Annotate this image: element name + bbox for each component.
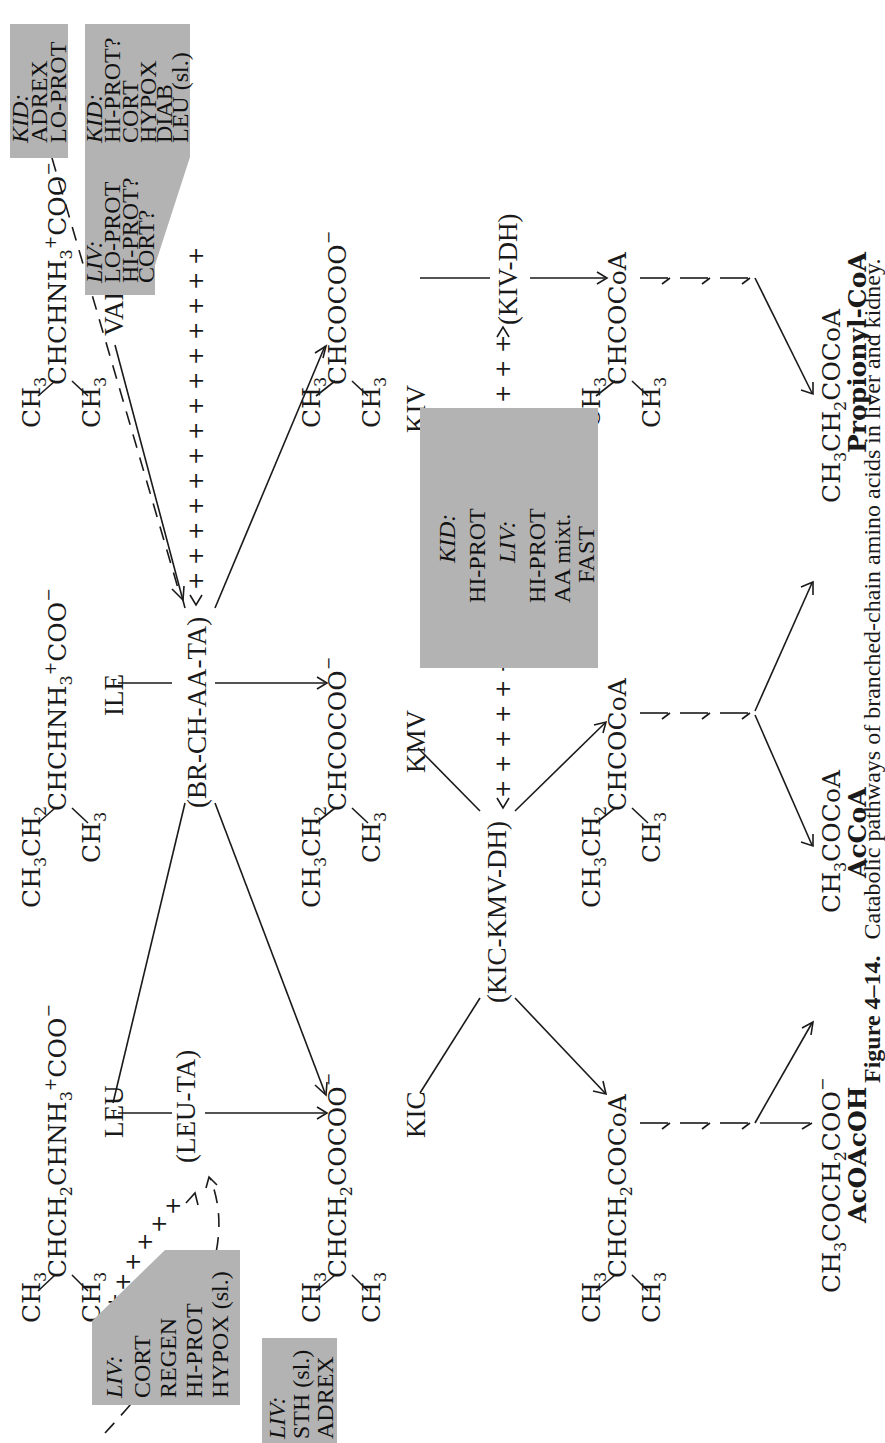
svg-text:HYPOX (sl.): HYPOX (sl.) xyxy=(207,1271,233,1398)
svg-text:+: + xyxy=(183,297,208,315)
svg-text:+: + xyxy=(490,755,515,773)
enzyme-kiv-dh[interactable]: (KIV-DH) xyxy=(493,214,523,325)
svg-text:HI-PROT: HI-PROT xyxy=(464,508,490,603)
ile-main-chain: CHCHNH3+COO− xyxy=(39,588,76,811)
kiv-keto-acid: CH3 CHCOCOO− CH3 xyxy=(297,231,390,428)
svg-text:REGEN: REGEN xyxy=(155,1318,181,1398)
svg-text:CH3: CH3 xyxy=(297,1272,330,1323)
svg-text:CH3: CH3 xyxy=(637,1272,670,1323)
svg-text:CHCOCOO−: CHCOCOO− xyxy=(319,231,352,385)
svg-text:+: + xyxy=(183,372,208,390)
svg-text:+: + xyxy=(490,385,515,403)
ile-ch3: CH3 xyxy=(77,812,110,863)
svg-text:+: + xyxy=(120,1253,145,1271)
box-dehydrogenase-regulation: KID: HI-PROT LIV: HI-PROT AA mixt. FAST xyxy=(420,408,599,668)
svg-text:LEU (sl.): LEU (sl.) xyxy=(167,52,193,143)
svg-text:HI-PROT: HI-PROT xyxy=(181,1303,207,1398)
ile-amino-acid: CH3CH2 CHCHNH3+COO− CH3 xyxy=(17,588,110,908)
val-ch3-lower: CH3 xyxy=(77,377,110,428)
svg-text:LIV:: LIV: xyxy=(101,1356,127,1399)
svg-text:LIV:: LIV: xyxy=(494,521,520,564)
svg-text:+: + xyxy=(490,705,515,723)
svg-text:+: + xyxy=(490,730,515,748)
svg-text:CORT?: CORT? xyxy=(133,210,159,283)
svg-text:+: + xyxy=(183,572,208,590)
svg-text:ADREX: ADREX xyxy=(312,1356,338,1439)
svg-text:+: + xyxy=(183,497,208,515)
svg-text:LIV:: LIV: xyxy=(264,1397,290,1440)
product-acoacoh: CH3COCH2COO− AcOAcOH xyxy=(813,1078,872,1293)
enzyme-leu-ta[interactable]: (LEU-TA) xyxy=(171,1050,201,1163)
svg-text:CORT: CORT xyxy=(129,1335,155,1398)
svg-text:LO-PROT: LO-PROT xyxy=(45,41,71,143)
ile-label: ILE xyxy=(99,674,129,716)
br-ch-aa-ta-positive-effect: + + + + + + + + + + + + + + xyxy=(183,247,208,605)
svg-text:CH3: CH3 xyxy=(637,812,670,863)
svg-text:FAST: FAST xyxy=(573,526,599,583)
svg-text:AA mixt.: AA mixt. xyxy=(549,514,575,603)
svg-text:+: + xyxy=(183,547,208,565)
pathway-diagram: CH3 CH3 CHCH2CHNH3+COO− CH3 CH3CH2 CHCHN… xyxy=(0,0,885,1443)
svg-text:+: + xyxy=(183,247,208,265)
svg-text:CHCOCoA: CHCOCoA xyxy=(603,251,632,385)
svg-text:AcOAcOH: AcOAcOH xyxy=(843,1087,872,1224)
svg-text:+: + xyxy=(183,472,208,490)
svg-text:CHCOCoA: CHCOCoA xyxy=(603,677,632,811)
svg-text:+: + xyxy=(183,422,208,440)
leu-amino-acid: CH3 CHCH2CHNH3+COO− CH3 xyxy=(17,1004,110,1323)
svg-text:+: + xyxy=(183,447,208,465)
svg-text:+: + xyxy=(490,335,515,353)
svg-text:CH3: CH3 xyxy=(357,377,390,428)
kic-label: KIC xyxy=(401,1092,431,1139)
kic-acyl-coa: CH3 CHCH2COCoA CH3 xyxy=(577,1093,670,1323)
svg-text:CHCH2COCoA: CHCH2COCoA xyxy=(603,1093,636,1278)
enzyme-br-ch-aa-ta[interactable]: (BR-CH-AA-TA) xyxy=(182,617,212,808)
kmv-keto-acid: CH3CH2 CHCOCOO− CH3 xyxy=(297,657,390,908)
svg-text:STH (sl.): STH (sl.) xyxy=(288,1350,314,1439)
box-br-ch-aa-ta-kidney-adrex: KID: ADREX LO-PROT xyxy=(7,24,71,158)
svg-text:CH3: CH3 xyxy=(357,812,390,863)
box-leu-ta-liver-sth: LIV: STH (sl.) ADREX xyxy=(262,1338,338,1443)
svg-text:+: + xyxy=(183,397,208,415)
figure-stage: CH3 CH3 CHCH2CHNH3+COO− CH3 CH3CH2 CHCHN… xyxy=(0,0,885,1443)
svg-text:+: + xyxy=(490,680,515,698)
svg-text:+: + xyxy=(146,1215,171,1233)
svg-text:+: + xyxy=(490,780,515,798)
kmv-acyl-coa: CH3CH2 CHCOCoA CH3 xyxy=(577,677,670,908)
svg-text:CH3CH2: CH3CH2 xyxy=(297,806,330,908)
svg-text:CHCOCOO−: CHCOCOO− xyxy=(319,657,352,811)
leu-ch3-upper: CH3 xyxy=(17,1272,50,1323)
figure-caption: Figure 4–14.Catabolic pathways of branch… xyxy=(859,259,885,1083)
svg-text:CHCH2COCOO−: CHCH2COCOO− xyxy=(319,1073,356,1278)
svg-text:KID:: KID: xyxy=(434,514,460,564)
box-br-ch-aa-ta-liver-kidney: LIV: LO-PROT HI-PROT? CORT? KID: HI-PROT… xyxy=(81,24,193,295)
svg-text:HI-PROT: HI-PROT xyxy=(524,508,550,603)
svg-text:+: + xyxy=(490,360,515,378)
ile-ch3ch2: CH3CH2 xyxy=(17,806,50,908)
leu-label: LEU xyxy=(99,1086,129,1138)
kmv-label: KMV xyxy=(401,709,431,773)
enzyme-kic-kmv-dh[interactable]: (KIC-KMV-DH) xyxy=(482,821,512,1003)
svg-text:+: + xyxy=(132,1233,157,1251)
svg-text:+: + xyxy=(160,1197,185,1215)
val-main-chain: CHCHNH3+COO− xyxy=(39,162,76,385)
svg-text:+: + xyxy=(183,272,208,290)
svg-text:+: + xyxy=(183,322,208,340)
leu-main-chain: CHCH2CHNH3+COO− xyxy=(39,1004,76,1278)
svg-text:+: + xyxy=(183,522,208,540)
svg-text:CH3: CH3 xyxy=(357,1272,390,1323)
svg-text:CH3CH2: CH3CH2 xyxy=(577,806,610,908)
svg-text:CH3: CH3 xyxy=(637,377,670,428)
svg-text:+: + xyxy=(183,347,208,365)
kic-keto-acid: CH3 CHCH2COCOO− CH3 xyxy=(297,1073,390,1323)
svg-text:CH3: CH3 xyxy=(577,1272,610,1323)
